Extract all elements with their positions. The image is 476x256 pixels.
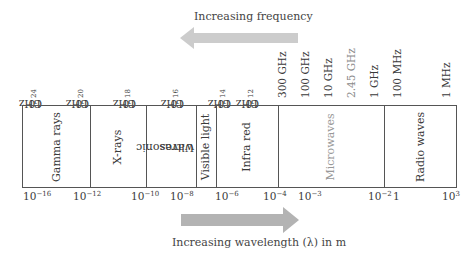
wavelength-label-10e-10: 10−10 — [131, 190, 159, 202]
band-visible-light: Visible light — [196, 106, 216, 187]
wavelength-label-10e-16: 10−16 — [23, 190, 51, 202]
band-microwaves: Microwaves — [278, 106, 384, 187]
right-arrow-icon — [179, 206, 301, 234]
spectrum-bar: Gamma rays X-rays Ultrasonicwaves Visibl… — [22, 105, 457, 188]
wavelength-label-10e-12: 10−12 — [73, 190, 101, 202]
band-radio-waves: Radio waves — [384, 106, 458, 187]
increasing-frequency-label: Increasing frequency — [194, 10, 313, 23]
band-gamma-rays: Gamma rays — [23, 106, 90, 187]
wavelength-label-10e3: 103 — [442, 190, 460, 202]
band-infra-red: Infra red — [216, 106, 278, 187]
band-ultrasonic-waves: Ultrasonicwaves — [146, 106, 196, 187]
wavelength-label-10e-3: 10−3 — [298, 190, 322, 202]
left-arrow-icon — [178, 26, 300, 50]
wavelength-label-10e-4: 10−4 — [263, 190, 287, 202]
wavelength-label-10e-2: 10−2 — [368, 190, 392, 202]
wavelength-label-10e-6: 10−6 — [215, 190, 239, 202]
increasing-wavelength-label: Increasing wavelength (λ) in m — [172, 236, 346, 249]
wavelength-label-1: 1 — [393, 190, 400, 202]
wavelength-label-10e-8: 10−8 — [170, 190, 194, 202]
